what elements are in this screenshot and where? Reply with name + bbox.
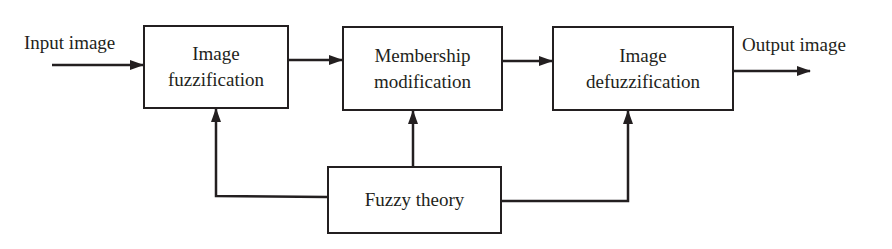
arrow-fuzzy-to-defuzzification [501, 111, 628, 201]
block-membership-line1: Membership [374, 43, 470, 69]
input-label: Input image [24, 32, 115, 54]
block-fuzzification-line2: fuzzification [168, 67, 264, 93]
block-fuzzification-line1: Image [192, 41, 239, 67]
output-label: Output image [742, 34, 846, 56]
block-fuzzy-theory: Fuzzy theory [327, 166, 502, 234]
block-membership-modification: Membership modification [342, 26, 503, 111]
arrow-fuzzy-to-fuzzification [216, 109, 327, 197]
block-fuzzy-theory-label: Fuzzy theory [365, 187, 465, 213]
block-defuzzification-line2: defuzzification [586, 69, 700, 95]
block-membership-line2: modification [374, 69, 471, 95]
block-defuzzification-line1: Image [619, 43, 666, 69]
block-image-defuzzification: Image defuzzification [552, 26, 734, 111]
block-image-fuzzification: Image fuzzification [143, 25, 289, 109]
